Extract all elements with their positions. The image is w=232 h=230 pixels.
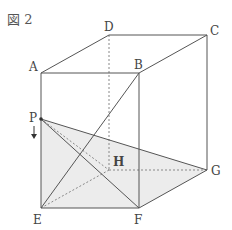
vertex-label-c: C — [210, 25, 219, 37]
vertex-label-d: D — [104, 21, 114, 33]
vertex-label-b: B — [134, 59, 143, 71]
vertex-label-a: A — [29, 61, 38, 73]
point-label-p: P — [29, 112, 37, 124]
vertex-label-g: G — [211, 165, 221, 177]
cube-diagram: 図 2 A B C D E F G H P — [0, 0, 232, 230]
edge-bc — [139, 35, 207, 73]
vertex-label-h: H — [113, 156, 124, 168]
vertex-label-f: F — [134, 214, 142, 226]
point-p-marker — [39, 117, 43, 121]
vertex-label-e: E — [33, 214, 42, 226]
down-arrow-icon — [31, 126, 37, 139]
edge-ad — [41, 35, 109, 73]
figure-title: 図 2 — [7, 9, 32, 28]
